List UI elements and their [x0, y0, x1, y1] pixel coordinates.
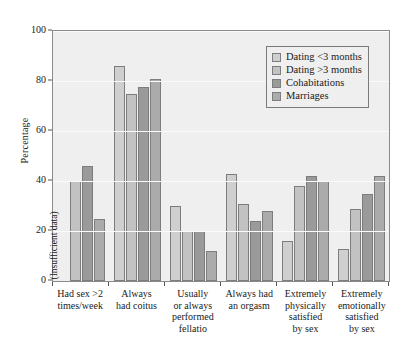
x-axis-label-line: Always [109, 288, 163, 300]
x-axis-category-label: Always hadan orgasm [221, 288, 277, 334]
bar-set: (Insufficient data) [53, 31, 109, 281]
x-axis-label-line: an orgasm [222, 300, 276, 312]
y-axis-tick-label: 0 [20, 275, 46, 285]
bar [294, 186, 305, 281]
y-axis-tick-label: 80 [20, 75, 46, 85]
x-axis-tick-mark [388, 282, 389, 286]
x-axis-label-line: satisfied [335, 311, 389, 323]
gridline [53, 131, 389, 132]
x-axis-label-line: Extremely [335, 288, 389, 300]
bar [250, 221, 261, 281]
bar [362, 194, 373, 282]
gridline [53, 31, 389, 32]
x-axis-tick-mark [276, 282, 277, 286]
bar [238, 204, 249, 282]
x-axis-label-line: or always [166, 300, 220, 312]
x-axis-label-line: times/week [53, 300, 107, 312]
x-axis-label-line: fellatio [166, 323, 220, 335]
x-axis-label-line: satisfied [278, 311, 332, 323]
legend-label: Dating >3 months [286, 65, 362, 76]
y-axis-tick-label: 100 [20, 25, 46, 35]
bar [150, 79, 161, 282]
bar [338, 249, 349, 282]
x-axis-label-line: Always had [222, 288, 276, 300]
legend-item: Dating <3 months [272, 51, 362, 64]
x-axis-label-line: Usually [166, 288, 220, 300]
legend-swatch-icon [272, 79, 281, 88]
y-axis-tick-mark [48, 230, 52, 231]
legend-item: Marriages [272, 90, 362, 103]
insufficient-data-label: (Insufficient data) [50, 211, 60, 279]
bar [350, 209, 361, 282]
x-axis-tick-mark [52, 282, 53, 286]
x-axis-category-label: Had sex >2times/week [52, 288, 108, 334]
bar [374, 176, 385, 281]
y-axis-tick-mark [48, 130, 52, 131]
bar [226, 174, 237, 282]
bar-group [165, 31, 221, 281]
x-axis-label-line: Extremely [278, 288, 332, 300]
x-axis-category-label: Alwayshad coitus [108, 288, 164, 334]
legend-label: Cohabitations [286, 78, 344, 89]
bar [114, 66, 125, 281]
legend-swatch-icon [272, 66, 281, 75]
legend-label: Dating <3 months [286, 52, 362, 63]
x-axis-category-label: Extremelyphysicallysatisfiedby sex [277, 288, 333, 334]
x-axis-label-line: Had sex >2 [53, 288, 107, 300]
x-axis-tick-mark [220, 282, 221, 286]
y-axis-tick-label: 20 [20, 225, 46, 235]
x-axis-label-line: emotionally [335, 300, 389, 312]
y-axis-tick-mark [48, 180, 52, 181]
y-axis-tick-label: 40 [20, 175, 46, 185]
x-axis-category-label: Usuallyor alwaysperformedfellatio [165, 288, 221, 334]
x-axis-tick-mark [164, 282, 165, 286]
gridline [53, 231, 389, 232]
bar [126, 94, 137, 282]
bar [306, 176, 317, 281]
y-axis-tick-mark [48, 280, 52, 281]
bar [194, 231, 205, 281]
x-axis-tick-mark [108, 282, 109, 286]
bar [182, 231, 193, 281]
bar-group [109, 31, 165, 281]
x-axis-label-line: by sex [335, 323, 389, 335]
bar-missing-dating-3-months: (Insufficient data) [58, 31, 69, 281]
bar [262, 211, 273, 281]
legend-swatch-icon [272, 92, 281, 101]
x-axis-tick-mark [332, 282, 333, 286]
bar-chart: Percentage 020406080100 (Insufficient da… [0, 0, 418, 352]
bar [170, 206, 181, 281]
bar-group: (Insufficient data) [53, 31, 109, 281]
gridline [53, 181, 389, 182]
y-axis-tick-mark [48, 80, 52, 81]
y-axis-tick-label: 60 [20, 125, 46, 135]
legend-item: Cohabitations [272, 77, 362, 90]
bar [82, 166, 93, 281]
legend-label: Marriages [286, 91, 329, 102]
x-axis-label-line: performed [166, 311, 220, 323]
y-axis-tick-mark [48, 30, 52, 31]
bar [138, 87, 149, 281]
bar [282, 241, 293, 281]
x-axis-category-labels: Had sex >2times/weekAlwayshad coitusUsua… [52, 288, 390, 334]
x-axis-ticks [52, 282, 390, 286]
legend-item: Dating >3 months [272, 64, 362, 77]
x-axis-label-line: physically [278, 300, 332, 312]
legend-swatch-icon [272, 53, 281, 62]
x-axis-category-label: Extremelyemotionallysatisfiedby sex [334, 288, 390, 334]
y-axis-tick-labels: 020406080100 [20, 30, 46, 282]
bar-set [165, 31, 221, 281]
bar [94, 219, 105, 282]
x-axis-label-line: had coitus [109, 300, 163, 312]
x-axis-label-line: by sex [278, 323, 332, 335]
legend: Dating <3 monthsDating >3 monthsCohabita… [266, 46, 369, 108]
bar-set [109, 31, 165, 281]
bar [206, 251, 217, 281]
